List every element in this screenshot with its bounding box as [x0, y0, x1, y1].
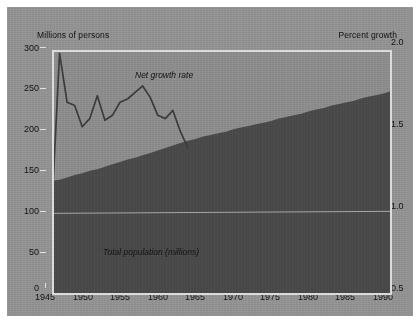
right-tick-1-5: 1.5	[391, 119, 417, 129]
x-tickmark-1945	[45, 283, 46, 288]
left-axis-title: Millions of persons	[37, 30, 109, 40]
annotation-net-growth-rate: Net growth rate	[135, 70, 193, 80]
left-tick-300: 300	[13, 43, 39, 53]
left-tick-250: 250	[13, 83, 39, 93]
plot-area	[52, 50, 392, 295]
left-tick-50: 50	[13, 247, 39, 257]
total-population-area	[52, 91, 392, 295]
right-tick-1-0: 1.0	[391, 201, 417, 211]
chart-svg	[52, 50, 392, 295]
chart-screenshot: Millions of persons Percent growth 300 2…	[0, 0, 420, 323]
right-tick-2-0: 2.0	[391, 37, 417, 47]
left-tickmark-300	[40, 47, 46, 48]
annotation-total-population: Total population (millions)	[103, 247, 199, 257]
left-tick-100: 100	[13, 206, 39, 216]
left-tickmark-50	[40, 252, 46, 253]
left-tickmark-100	[40, 211, 46, 212]
left-tick-150: 150	[13, 165, 39, 175]
left-tickmark-150	[40, 170, 46, 171]
chart-plate: Millions of persons Percent growth 300 2…	[7, 7, 413, 316]
left-tickmark-250	[40, 88, 46, 89]
left-tick-200: 200	[13, 124, 39, 134]
left-tickmark-200	[40, 129, 46, 130]
right-axis-title: Percent growth	[338, 30, 397, 40]
